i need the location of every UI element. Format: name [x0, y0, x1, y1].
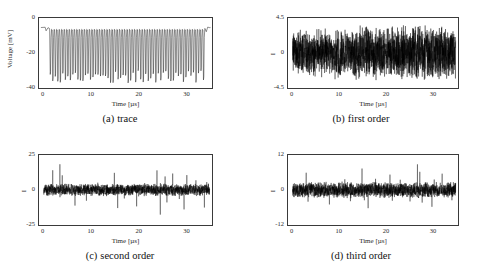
panel-c-xtick-1: 10 — [87, 228, 94, 235]
panel-a: 0 -20 -40 Voltage [mV] 0 10 20 30 Time [… — [0, 0, 240, 136]
panel-b-ytick-0: 4.5 — [276, 14, 284, 21]
panel-a-caption: (a)trace — [0, 113, 240, 124]
panel-c-xtick-3: 30 — [183, 228, 190, 235]
panel-b-ytick-group: 4.5 0 -4.5 — [241, 0, 284, 106]
panel-b-caption: (b)first order — [241, 113, 481, 124]
panel-d-ylabel: I — [269, 183, 277, 199]
panel-a-xtick-3: 30 — [183, 91, 190, 98]
panel-c-caption-tag: (c) — [86, 250, 98, 261]
panel-b-trace-svg — [288, 18, 458, 88]
panel-d-caption-text: third order — [346, 250, 391, 261]
panel-a-ytick-1: -20 — [26, 49, 35, 56]
panel-c-ytick-group: 25 0 -25 — [0, 137, 35, 243]
panel-c-ytick-0: 25 — [29, 151, 36, 158]
panel-a-caption-tag: (a) — [102, 113, 114, 124]
panel-d-xtick-1: 10 — [336, 228, 343, 235]
panel-a-caption-text: trace — [117, 113, 137, 124]
panel-a-xtick-1: 10 — [87, 91, 94, 98]
panel-a-xtick-2: 20 — [135, 91, 142, 98]
panel-d-ytick-1: 0 — [281, 186, 284, 193]
panel-b-xtick-1: 10 — [336, 91, 343, 98]
panel-b-caption-text: first order — [348, 113, 390, 124]
panel-c-xlabel: Time [µs] — [38, 237, 213, 245]
panel-d-xtick-0: 0 — [290, 228, 293, 235]
panel-c-ylabel: I — [20, 183, 28, 199]
panel-c-plot-area — [38, 154, 213, 226]
panel-c-ytick-2: -25 — [26, 221, 35, 228]
panel-b-xtick-3: 30 — [430, 91, 437, 98]
panel-d-trace-svg — [288, 155, 458, 225]
panel-b-caption-tag: (b) — [333, 113, 345, 124]
panel-a-ylabel: Voltage [mV] — [6, 21, 14, 77]
panel-a-xtick-0: 0 — [41, 91, 44, 98]
panel-a-xlabel: Time [µs] — [38, 100, 213, 108]
panel-b: 4.5 0 -4.5 I 0 10 20 30 Time [µs] (b)fir… — [241, 0, 481, 136]
panel-d-xtick-3: 30 — [430, 228, 437, 235]
panel-c: 25 0 -25 I 0 10 20 30 Time [µs] (c)secon… — [0, 137, 240, 273]
panel-d-caption: (d)third order — [241, 250, 481, 261]
panel-b-ytick-1: 0 — [281, 49, 284, 56]
panel-b-plot-area — [287, 17, 459, 89]
panel-d-ytick-0: 12 — [278, 151, 285, 158]
panel-d-xlabel: Time [µs] — [287, 237, 459, 245]
panel-d: 12 0 -12 I 0 10 20 30 Time [µs] (d)third… — [241, 137, 481, 273]
panel-c-ytick-1: 0 — [32, 186, 35, 193]
panel-b-xlabel: Time [µs] — [287, 100, 459, 108]
panel-a-ytick-2: -40 — [26, 84, 35, 91]
panel-a-ytick-0: 0 — [32, 14, 35, 21]
panel-d-ytick-group: 12 0 -12 — [241, 137, 284, 243]
panel-b-ytick-2: -4.5 — [274, 84, 284, 91]
panel-b-ylabel: I — [269, 46, 277, 62]
panel-c-trace-svg — [39, 155, 212, 225]
panel-d-caption-tag: (d) — [331, 250, 343, 261]
panel-c-xtick-2: 20 — [135, 228, 142, 235]
panel-c-xtick-0: 0 — [41, 228, 44, 235]
panel-a-plot-area — [38, 17, 213, 89]
panel-d-ytick-2: -12 — [275, 221, 284, 228]
panel-a-trace-svg — [39, 18, 212, 88]
panel-c-caption-text: second order — [100, 250, 154, 261]
subfigure-grid: 0 -20 -40 Voltage [mV] 0 10 20 30 Time [… — [0, 0, 481, 273]
panel-c-caption: (c)second order — [0, 250, 240, 261]
panel-d-xtick-2: 20 — [383, 228, 390, 235]
panel-d-plot-area — [287, 154, 459, 226]
panel-b-xtick-2: 20 — [383, 91, 390, 98]
panel-b-xtick-0: 0 — [290, 91, 293, 98]
